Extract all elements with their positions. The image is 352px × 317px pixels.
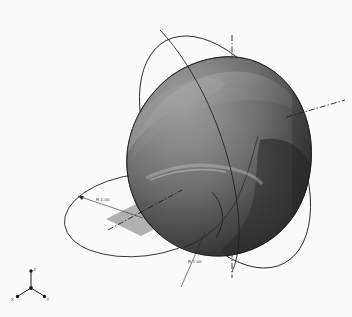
radius-dimension-bottom-label: R 1.00 [188,259,202,264]
radius-dimension-left-label: R 1.00 [96,197,110,202]
triad-label-x: X [11,297,14,302]
triad-node-z [29,269,32,272]
scene-canvas[interactable]: R 1.00 R 1.00 Z X Y [0,0,352,317]
triad-label-y: Y [47,297,50,302]
triad-node-x [16,295,19,298]
model-viewport[interactable]: R 1.00 R 1.00 Z X Y [0,0,352,317]
